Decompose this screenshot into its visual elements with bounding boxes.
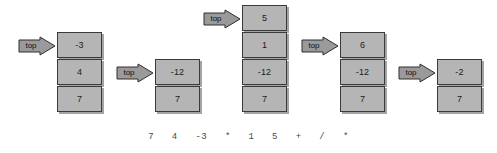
postfix-expression: 7 4 -3 * 1 5 + / * xyxy=(0,132,497,142)
top-pointer-arrow-1: top xyxy=(18,36,56,56)
stack-cell: -2 xyxy=(437,59,482,85)
stack-1: -3 4 7 xyxy=(57,32,102,112)
stack-cell: -12 xyxy=(340,59,385,85)
arrow-shape-icon xyxy=(301,36,339,56)
stack-cell: 1 xyxy=(242,32,287,58)
stack-cell: 7 xyxy=(242,86,287,112)
stack-cell: 6 xyxy=(340,32,385,58)
top-pointer-arrow-5: top xyxy=(398,63,436,83)
stack-cell: 5 xyxy=(242,5,287,31)
stack-cell: -12 xyxy=(242,59,287,85)
stack-cell: 7 xyxy=(340,86,385,112)
arrow-shape-icon xyxy=(203,9,241,29)
top-pointer-arrow-2: top xyxy=(116,63,154,83)
arrow-shape-icon xyxy=(398,63,436,83)
stack-5: -2 7 xyxy=(437,59,482,112)
arrow-shape-icon xyxy=(116,63,154,83)
stack-cell: -3 xyxy=(57,32,102,58)
top-pointer-arrow-4: top xyxy=(301,36,339,56)
stack-evaluation-diagram: top -3 4 7 top -12 7 top 5 1 -12 7 top 6 xyxy=(0,0,497,153)
stack-cell: 7 xyxy=(155,86,200,112)
top-pointer-arrow-3: top xyxy=(203,9,241,29)
arrow-shape-icon xyxy=(18,36,56,56)
stack-2: -12 7 xyxy=(155,59,200,112)
stack-cell: -12 xyxy=(155,59,200,85)
stack-cell: 7 xyxy=(437,86,482,112)
stack-cell: 7 xyxy=(57,86,102,112)
stack-4: 6 -12 7 xyxy=(340,32,385,112)
stack-cell: 4 xyxy=(57,59,102,85)
stack-3: 5 1 -12 7 xyxy=(242,5,287,112)
